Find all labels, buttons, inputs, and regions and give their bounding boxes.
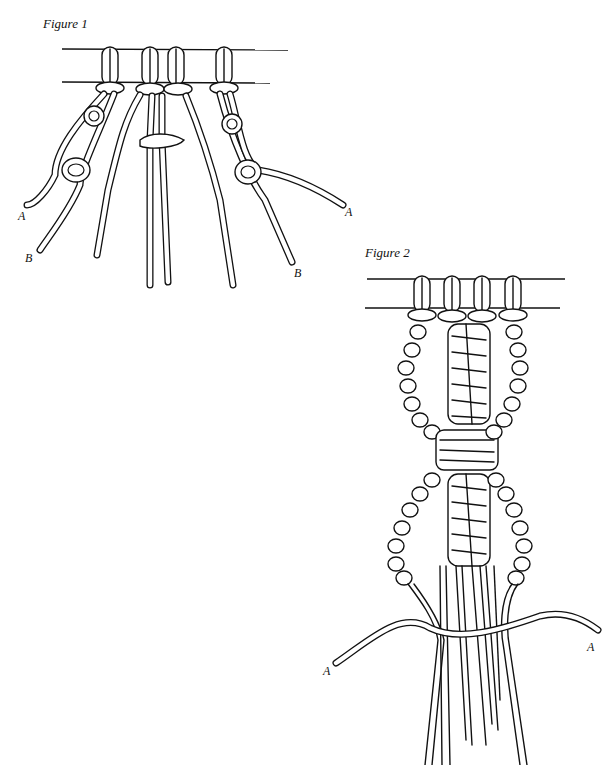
figure-1-label-left-a: A [18, 209, 25, 224]
dowel-bottom-edge [62, 82, 270, 83]
right-chain-figure-2 [486, 325, 528, 439]
center-cords-figure-1 [97, 95, 233, 285]
figure-2-label-right-a: A [587, 640, 594, 655]
figure-1-label-right-a: A [345, 205, 352, 220]
lower-left-chain-figure-2 [388, 473, 440, 585]
cord-loops-figure-1 [96, 47, 238, 95]
hanging-cords-figure-2 [408, 566, 527, 765]
center-sennit-figure-2 [436, 324, 498, 566]
figure-1-illustration [0, 0, 611, 765]
figure-2-caption: Figure 2 [365, 245, 410, 261]
figure-2-label-left-a: A [323, 664, 330, 679]
figure-1-label-right-b: B [294, 266, 301, 281]
right-cords-figure-1 [220, 94, 343, 262]
figure-1-label-left-b: B [25, 251, 32, 266]
left-chain-figure-2 [398, 325, 440, 439]
cord-loops-figure-2 [408, 276, 527, 322]
